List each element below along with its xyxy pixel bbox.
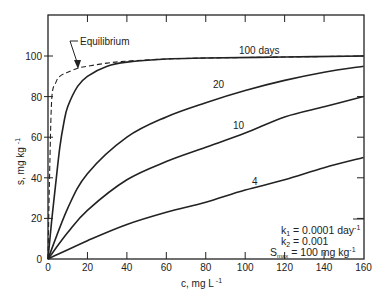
y-tick-label: 20 — [31, 213, 43, 224]
equilibrium-arrowhead-icon — [74, 60, 81, 69]
label-4-days: 4 — [252, 176, 258, 187]
y-tick-label: 100 — [25, 51, 42, 62]
y-tick-label: 80 — [31, 92, 43, 103]
y-tick-label: 60 — [31, 132, 43, 143]
label-10-days: 10 — [233, 120, 245, 131]
plot-frame — [48, 15, 364, 259]
x-axis-title: c, mg L-1 — [181, 277, 222, 289]
label-equilibrium: Equilibrium — [80, 36, 129, 47]
label-20-days: 20 — [213, 79, 225, 90]
x-tick-label: 120 — [276, 262, 293, 273]
y-axis-title: s, mg kg-1 — [14, 138, 26, 185]
axis-ticks — [44, 15, 364, 259]
label-100-days: 100 days — [239, 45, 280, 56]
x-tick-label: 20 — [82, 262, 94, 273]
chart: 020406080100120140160020406080100 100 da… — [0, 0, 387, 300]
y-tick-label: 40 — [31, 173, 43, 184]
x-tick-label: 100 — [237, 262, 254, 273]
y-tick-label: 0 — [36, 254, 42, 265]
x-tick-label: 140 — [316, 262, 333, 273]
x-tick-label: 160 — [355, 262, 372, 273]
param-smax: Smax = 100 mg kg-1 — [270, 246, 356, 259]
x-tick-label: 60 — [161, 262, 173, 273]
x-tick-label: 80 — [200, 262, 212, 273]
x-tick-label: 40 — [121, 262, 133, 273]
x-tick-label: 0 — [45, 262, 51, 273]
